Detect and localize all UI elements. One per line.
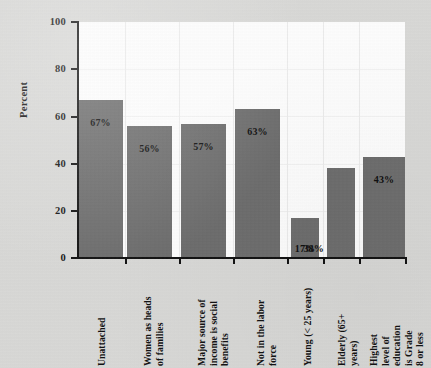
gridline-vertical-1 <box>125 22 126 258</box>
bar-value-label: 57% <box>181 141 226 152</box>
y-tick-80 <box>71 68 78 70</box>
bar-unattached[interactable]: 67% <box>78 100 123 258</box>
y-tick-label-100: 100 <box>38 16 66 27</box>
bar-value-label: 43% <box>363 174 405 185</box>
y-tick-100 <box>71 21 78 23</box>
bar-value-label: 67% <box>78 117 123 128</box>
x-tick-7 <box>405 258 407 264</box>
category-axis-labels: Unattached Women as heads of families Ma… <box>78 264 405 368</box>
category-label-major-source-of-income-is-social-benefits: Major source of income is social benefit… <box>196 299 231 366</box>
y-tick-label-20: 20 <box>38 205 66 216</box>
category-label-young-under-25-years: Young (< 25 years) <box>302 288 314 366</box>
bar-not-in-the-labor-force[interactable]: 63% <box>235 109 280 258</box>
y-tick-20 <box>71 210 78 212</box>
bar-value-label: 38% <box>294 243 324 254</box>
category-label-highest-level-of-education-is-grade-8-or-less: Highest level of education is Grade 8 or… <box>368 325 426 366</box>
gridline-vertical-2 <box>179 22 180 258</box>
gridline-vertical-6 <box>359 22 360 258</box>
y-axis-line <box>77 21 79 259</box>
y-tick-40 <box>71 163 78 165</box>
y-tick-label-40: 40 <box>38 158 66 169</box>
bar-chart-figure: 67% 56% 57% 63% 17% 38% 43% 100 80 60 40… <box>0 0 431 368</box>
category-label-elderly-65-plus-years: Elderly (65+ years) <box>336 297 359 366</box>
bar-value-label: 63% <box>235 126 280 137</box>
category-label-unattached: Unattached <box>96 318 108 366</box>
gridline-horizontal-80 <box>78 69 405 70</box>
bar-highest-level-of-education-is-grade-8-or-less[interactable]: 43% <box>363 157 405 259</box>
category-label-women-as-heads-of-families: Women as heads of families <box>142 296 165 366</box>
bar-women-as-heads-of-families[interactable]: 56% <box>127 126 172 258</box>
bar-elderly-65-plus-years[interactable]: 38% <box>327 168 355 258</box>
y-tick-label-80: 80 <box>38 63 66 74</box>
y-axis-title: Percent <box>18 82 29 118</box>
y-tick-0 <box>71 257 78 259</box>
bar-major-source-of-income-is-social-benefits[interactable]: 57% <box>181 124 226 259</box>
y-tick-60 <box>71 116 78 118</box>
y-tick-label-60: 60 <box>38 111 66 122</box>
gridline-vertical-3 <box>233 22 234 258</box>
gridline-vertical-5 <box>323 22 324 258</box>
plot-area: 67% 56% 57% 63% 17% 38% 43% <box>78 22 405 258</box>
y-tick-label-0: 0 <box>38 252 66 263</box>
category-label-not-in-the-labor-force: Not in the labor force <box>255 300 278 366</box>
gridline-vertical-4 <box>287 22 288 258</box>
bar-value-label: 56% <box>127 143 172 154</box>
